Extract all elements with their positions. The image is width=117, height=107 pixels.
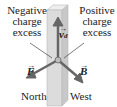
label-line: excess [77,27,117,38]
vector-arrow-icon: → [80,60,88,71]
north-label: North [21,91,47,102]
negative-charge-label: Negative charge excess [4,5,50,38]
field-label: →B [80,66,87,77]
positive-charge-label: Positive charge excess [77,5,117,38]
west-label: West [70,91,92,102]
label-line: excess [4,27,50,38]
drift-velocity-label: →vd [59,29,67,42]
vector-arrow-icon: → [59,23,67,34]
vector-arrow-icon: → [27,60,35,71]
force-label: →F [27,66,34,77]
hall-effect-diagram: Negative charge excess Positive charge e… [0,0,117,107]
